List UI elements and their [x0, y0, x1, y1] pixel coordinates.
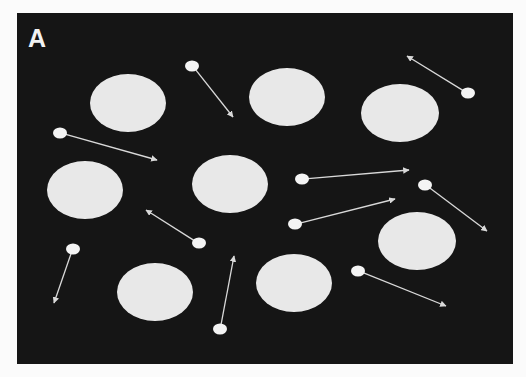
obstacle-circle	[117, 263, 193, 321]
obstacle-circle	[90, 74, 166, 132]
particle-dot	[213, 324, 227, 335]
particle-dot	[66, 244, 80, 255]
particle-dot	[351, 266, 365, 277]
obstacle-circle	[378, 212, 456, 270]
obstacle-circle	[256, 254, 332, 312]
diagram-figure: A	[0, 0, 526, 377]
obstacle-circle	[47, 161, 123, 219]
particle-dot	[461, 88, 475, 99]
obstacle-circle	[192, 155, 268, 213]
particle-dot	[295, 174, 309, 185]
obstacle-circle	[249, 68, 325, 126]
panel-label: A	[28, 24, 46, 52]
particle-dot	[192, 238, 206, 249]
particle-dot	[53, 128, 67, 139]
particle-dot	[288, 219, 302, 230]
obstacle-circle	[361, 84, 439, 142]
particle-dot	[185, 61, 199, 72]
particle-dot	[418, 180, 432, 191]
